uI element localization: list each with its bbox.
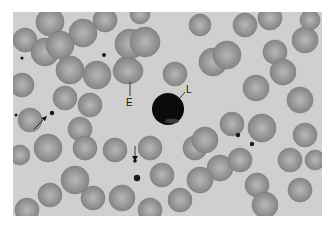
label-l: L bbox=[186, 84, 192, 95]
erythrocyte-e bbox=[113, 58, 143, 84]
micrograph-image: E L bbox=[13, 12, 322, 216]
blood-smear-svg: E L bbox=[13, 12, 322, 216]
label-e: E bbox=[126, 97, 133, 108]
lymphocyte bbox=[152, 93, 184, 125]
